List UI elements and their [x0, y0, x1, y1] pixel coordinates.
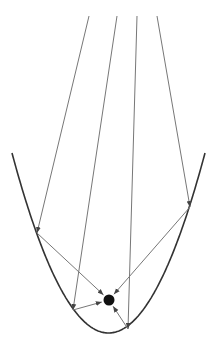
incoming-ray-3	[128, 16, 137, 329]
reflected-ray-1	[37, 233, 104, 295]
reflected-ray-3	[113, 306, 128, 329]
rays-group	[37, 16, 190, 329]
parabola-curve	[12, 153, 205, 333]
focus-point	[104, 295, 115, 306]
incoming-ray-4	[157, 16, 190, 207]
parabolic-reflector-diagram	[0, 0, 216, 350]
incoming-ray-1	[37, 16, 89, 233]
reflected-ray-2	[73, 302, 102, 310]
reflected-ray-4	[114, 207, 190, 294]
incoming-ray-2	[73, 16, 117, 310]
